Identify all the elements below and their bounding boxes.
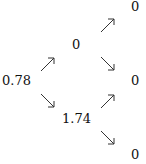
arrow-down-right-icon bbox=[40, 93, 56, 109]
arrow-up-right-icon bbox=[40, 56, 56, 72]
arrow-up-right-icon bbox=[100, 93, 116, 109]
arrow-down-right-icon bbox=[100, 130, 116, 146]
ud-node-level2: 0 bbox=[131, 74, 139, 88]
dd-node-level2: 0 bbox=[131, 148, 139, 162]
arrow-down-right-icon bbox=[100, 56, 116, 72]
arrow-up-right-icon bbox=[100, 17, 116, 33]
down-node-level1: 1.74 bbox=[62, 112, 91, 126]
up-node-level1: 0 bbox=[72, 38, 80, 52]
root-node: 0.78 bbox=[2, 74, 31, 88]
uu-node-level2: 0 bbox=[131, 0, 139, 14]
